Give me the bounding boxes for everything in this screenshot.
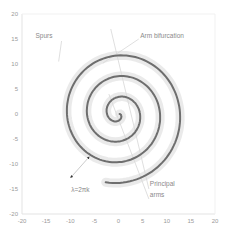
- y-tick-label: 20: [11, 11, 18, 17]
- x-tick-label: -15: [42, 218, 51, 224]
- annotation-label: Principal: [150, 180, 175, 188]
- wavelength-arrow: [71, 158, 88, 178]
- y-tick-label: 15: [11, 36, 18, 42]
- wavelength-arrow-line: [71, 158, 88, 178]
- annotation-label: arms: [150, 191, 165, 198]
- y-axis-ticks: 20151050-5-10-15-20: [9, 11, 18, 217]
- x-tick-label: -10: [66, 218, 75, 224]
- x-tick-label: 0: [117, 218, 121, 224]
- spiral-arm: [67, 55, 180, 183]
- leader-line: [59, 41, 62, 62]
- y-tick-label: -5: [13, 136, 19, 142]
- annotation-label: λ=2πk: [71, 186, 90, 193]
- y-tick-label: -10: [9, 161, 18, 167]
- x-tick-label: 5: [141, 218, 145, 224]
- x-tick-label: -5: [92, 218, 98, 224]
- annotation-label: Spurs: [36, 32, 54, 40]
- x-tick-label: 20: [212, 218, 219, 224]
- annotation-label: Arm bifurcation: [140, 32, 184, 39]
- x-tick-label: 10: [163, 218, 170, 224]
- y-tick-label: -20: [9, 211, 18, 217]
- y-tick-label: 10: [11, 61, 18, 67]
- spiral-chart: 20151050-5-10-15-20 -20-15-10-505101520 …: [0, 0, 233, 234]
- x-axis-ticks: -20-15-10-505101520: [18, 218, 219, 224]
- x-tick-label: -20: [18, 218, 27, 224]
- x-tick-label: 15: [188, 218, 195, 224]
- y-tick-label: 5: [15, 86, 19, 92]
- y-tick-label: 0: [15, 111, 19, 117]
- y-tick-label: -15: [9, 186, 18, 192]
